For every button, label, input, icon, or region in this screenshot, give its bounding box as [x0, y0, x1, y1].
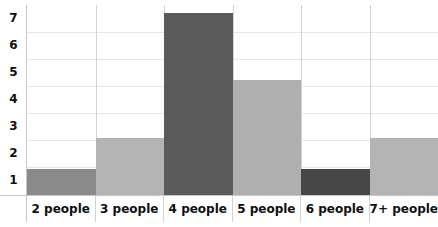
y-tick-1: 1 [0, 167, 27, 193]
y-tick-3: 3 [0, 113, 27, 139]
bar-cell [370, 5, 438, 195]
y-tick-2: 2 [0, 140, 27, 166]
bar-chart: 7 6 5 4 3 2 1 2 people 3 people [0, 0, 438, 227]
y-axis: 7 6 5 4 3 2 1 [0, 5, 27, 222]
bar-cell [233, 5, 302, 195]
bar-7-people [370, 138, 438, 195]
bar-4-people [164, 13, 233, 195]
y-tick-4: 4 [0, 86, 27, 112]
y-tick-5: 5 [0, 59, 27, 85]
plot-area [27, 5, 438, 195]
bar-6-people [301, 169, 370, 195]
bar-2-people [27, 169, 96, 195]
y-tick-6: 6 [0, 32, 27, 58]
bar-5-people [233, 80, 302, 195]
x-label-7plus-people: 7+ people [370, 196, 438, 222]
x-label-5-people: 5 people [233, 196, 302, 222]
bar-cell [301, 5, 370, 195]
x-axis-labels: 2 people 3 people 4 people 5 people 6 pe… [27, 196, 438, 222]
bar-cell [96, 5, 165, 195]
x-label-6-people: 6 people [301, 196, 370, 222]
bar-cell [164, 5, 233, 195]
axis-corner [0, 196, 27, 222]
y-tick-7: 7 [0, 5, 27, 31]
x-label-4-people: 4 people [164, 196, 233, 222]
bar-3-people [96, 138, 165, 195]
x-label-2-people: 2 people [27, 196, 96, 222]
x-label-3-people: 3 people [96, 196, 165, 222]
x-axis: 2 people 3 people 4 people 5 people 6 pe… [0, 195, 438, 222]
bar-cell [27, 5, 96, 195]
bar-series [27, 5, 438, 195]
